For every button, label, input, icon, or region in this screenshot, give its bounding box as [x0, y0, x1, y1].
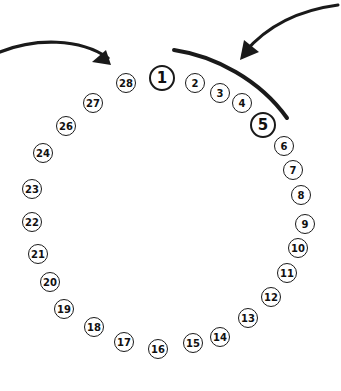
number-node-24: 24 [33, 143, 53, 163]
number-node-22: 22 [22, 212, 42, 232]
number-node-28: 28 [116, 73, 136, 93]
number-node-6: 6 [274, 136, 294, 156]
number-node-15: 15 [183, 333, 203, 353]
number-node-16: 16 [148, 339, 168, 359]
right-curved-arrow [240, 5, 338, 60]
number-node-8: 8 [291, 185, 311, 205]
number-node-12: 12 [261, 287, 281, 307]
number-node-1: 1 [149, 65, 175, 91]
left-curved-arrow [0, 42, 111, 65]
number-node-11: 11 [277, 263, 297, 283]
number-node-13: 13 [238, 308, 258, 328]
number-node-3: 3 [210, 83, 230, 103]
number-node-26: 26 [56, 116, 76, 136]
number-node-7: 7 [283, 160, 303, 180]
arrows-layer [0, 0, 341, 391]
number-node-20: 20 [40, 272, 60, 292]
number-node-5: 5 [250, 112, 276, 138]
number-node-21: 21 [28, 244, 48, 264]
number-node-4: 4 [232, 93, 252, 113]
number-node-9: 9 [295, 214, 315, 234]
number-node-14: 14 [210, 327, 230, 347]
number-node-23: 23 [22, 179, 42, 199]
number-node-2: 2 [185, 73, 205, 93]
number-node-18: 18 [84, 317, 104, 337]
circular-sequence-diagram: 1234567891011121314151617181920212223242… [0, 0, 341, 391]
number-node-17: 17 [114, 332, 134, 352]
number-node-19: 19 [54, 299, 74, 319]
number-node-27: 27 [83, 93, 103, 113]
number-node-10: 10 [288, 238, 308, 258]
